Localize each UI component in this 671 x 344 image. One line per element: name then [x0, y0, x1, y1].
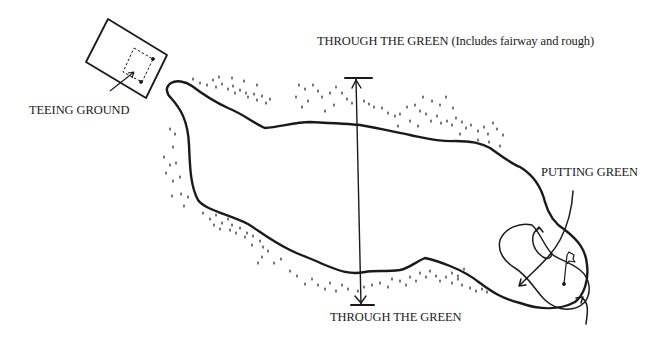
green-inner-arrow-loop	[533, 228, 552, 258]
fairway-outline	[167, 81, 588, 308]
through-the-green-top-label: THROUGH THE GREEN (Includes fairway and …	[317, 34, 594, 49]
putting-green-label: PUTTING GREEN	[541, 165, 638, 180]
teeing-ground-box	[86, 19, 167, 98]
flag-icon	[563, 252, 575, 285]
putting-green	[499, 191, 589, 324]
green-outline	[499, 224, 589, 309]
through-the-green-bottom-label: THROUGH THE GREEN	[330, 310, 461, 325]
rough-stipple	[164, 76, 503, 293]
teeing-ground-label: TEEING GROUND	[29, 103, 129, 118]
